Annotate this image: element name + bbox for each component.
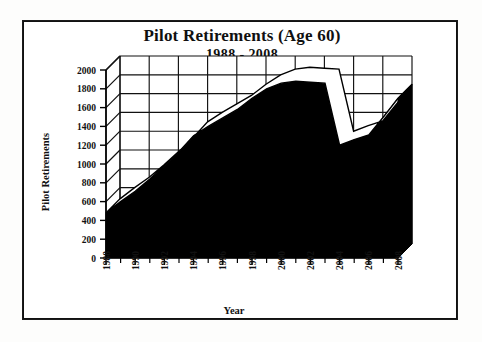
x-axis-tick-label: 2008 (394, 251, 404, 270)
x-axis-tick-label: 2000 (277, 251, 287, 270)
y-axis-title: Pilot Retirements (40, 133, 51, 211)
pilot-retirements-area-chart: 0200400600800100012001400160018002000 19… (24, 22, 460, 322)
x-axis-tick-label: 2004 (335, 251, 345, 270)
y-axis-tick-label: 800 (82, 178, 97, 188)
x-axis-title: Year (224, 305, 245, 316)
y-axis-tick-label: 1400 (77, 122, 96, 132)
y-axis-tick-labels: 0200400600800100012001400160018002000 (77, 66, 96, 264)
y-axis-tick-label: 1600 (77, 103, 96, 113)
y-axis-tick-label: 1800 (77, 84, 96, 94)
x-axis-tick-label: 1990 (131, 251, 141, 270)
x-axis-tick-label: 1988 (102, 251, 112, 270)
page-background: Pilot Retirements (Age 60) 1988 - 2008 0… (0, 0, 482, 342)
x-axis-tick-label: 1996 (218, 251, 228, 270)
x-axis-tick-label: 1994 (189, 251, 199, 270)
x-axis-tick-label: 1992 (160, 251, 170, 270)
x-axis-tick-label: 2006 (364, 251, 374, 270)
x-axis-tick-label: 1998 (248, 251, 258, 270)
y-axis-tick-label: 200 (82, 235, 97, 245)
y-axis-tick-label: 1200 (77, 141, 96, 151)
y-axis-tick-label: 600 (82, 197, 97, 207)
y-axis-tick-label: 400 (82, 216, 97, 226)
chart-plot-area: 0200400600800100012001400160018002000 19… (24, 22, 460, 322)
y-axis-tick-label: 2000 (77, 66, 96, 76)
y-axis-tick-label: 0 (91, 254, 96, 264)
x-axis-tick-label: 2002 (306, 251, 316, 270)
y-axis-tick-label: 1000 (77, 160, 96, 170)
chart-frame: Pilot Retirements (Age 60) 1988 - 2008 0… (22, 20, 458, 320)
